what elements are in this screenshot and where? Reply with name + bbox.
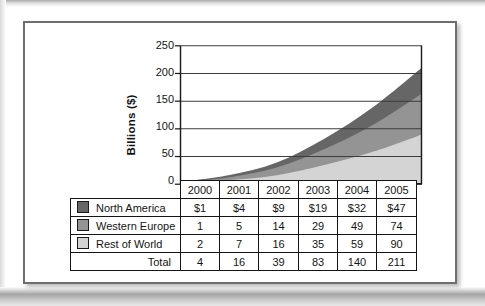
year-cell: 2005 [377, 181, 417, 199]
value-cell: $1 [181, 199, 220, 217]
year-cell: 2000 [181, 181, 220, 199]
total-value-cell: 140 [338, 253, 377, 271]
scan-shading-top [0, 0, 485, 7]
value-cell: $19 [299, 199, 338, 217]
table-corner-spacer [71, 181, 181, 199]
total-value-cell: 211 [377, 253, 417, 271]
year-cell: 2003 [299, 181, 338, 199]
y-tick-label: 150 [134, 92, 174, 106]
y-tick-label: 250 [134, 38, 174, 52]
series-label: North America [96, 202, 166, 214]
value-cell: 59 [338, 235, 377, 253]
series-swatch [77, 237, 89, 249]
table-row: Rest of World2716355990 [71, 235, 417, 253]
year-cell: 2001 [220, 181, 259, 199]
table-row: North America$1$4$9$19$32$47 [71, 199, 417, 217]
value-cell: 35 [299, 235, 338, 253]
total-label-cell: Total [71, 253, 181, 271]
value-cell: 29 [299, 217, 338, 235]
scan-shading-left [0, 0, 6, 306]
series-label: Rest of World [96, 238, 162, 250]
data-table: 200020012002200320042005North America$1$… [70, 180, 417, 271]
total-value-cell: 4 [181, 253, 220, 271]
value-cell: $9 [259, 199, 299, 217]
value-cell: 16 [259, 235, 299, 253]
value-cell: 49 [338, 217, 377, 235]
total-value-cell: 16 [220, 253, 259, 271]
value-cell: $47 [377, 199, 417, 217]
series-label: Western Europe [96, 220, 175, 232]
value-cell: $32 [338, 199, 377, 217]
legend-cell: Rest of World [71, 235, 181, 253]
total-value-cell: 83 [299, 253, 338, 271]
table-total-row: Total4163983140211 [71, 253, 417, 271]
value-cell: 5 [220, 217, 259, 235]
scan-shading-bottom [0, 287, 485, 306]
year-cell: 2004 [338, 181, 377, 199]
y-tick-label: 100 [134, 119, 174, 133]
value-cell: 2 [181, 235, 220, 253]
value-cell: 1 [181, 217, 220, 235]
stacked-area-chart [180, 45, 422, 185]
total-value-cell: 39 [259, 253, 299, 271]
legend-cell: Western Europe [71, 217, 181, 235]
y-tick-label: 50 [134, 146, 174, 160]
value-cell: 90 [377, 235, 417, 253]
y-tick-label: 200 [134, 65, 174, 79]
scanned-figure-page: Billions ($) 050100150200250 20002001200… [0, 0, 485, 306]
legend-cell: North America [71, 199, 181, 217]
value-cell: 7 [220, 235, 259, 253]
value-cell: 74 [377, 217, 417, 235]
value-cell: 14 [259, 217, 299, 235]
table-year-header-row: 200020012002200320042005 [71, 181, 417, 199]
value-cell: $4 [220, 199, 259, 217]
year-cell: 2002 [259, 181, 299, 199]
series-swatch [77, 219, 89, 231]
table-row: Western Europe1514294974 [71, 217, 417, 235]
series-swatch [77, 201, 89, 213]
